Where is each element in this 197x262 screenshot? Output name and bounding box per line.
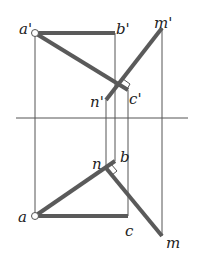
label-c: c: [125, 222, 134, 240]
point-a-marker: [32, 213, 39, 220]
line-a-prime-c-prime: [35, 33, 128, 90]
label-m: m: [166, 234, 180, 252]
point-a-prime-marker: [32, 30, 39, 37]
label-b-prime: b': [116, 20, 130, 38]
label-b: b: [120, 148, 130, 166]
label-a-prime: a': [19, 20, 32, 38]
projection-diagram: a' b' m' n' c' a b c n m: [0, 0, 197, 262]
label-n: n: [92, 155, 102, 173]
label-m-prime: m': [154, 14, 172, 32]
line-a-b: [35, 161, 115, 216]
label-n-prime: n': [90, 93, 104, 111]
line-n-m: [106, 168, 162, 236]
label-a: a: [18, 208, 27, 226]
label-c-prime: c': [129, 90, 142, 108]
